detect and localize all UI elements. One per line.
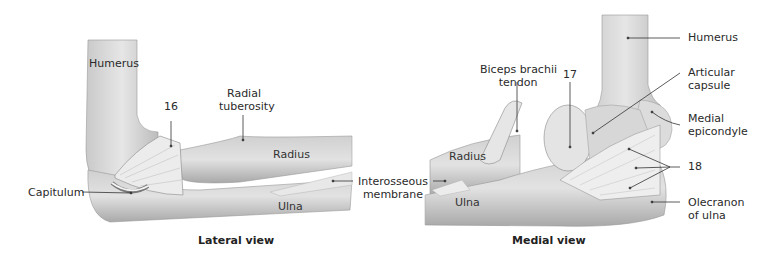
- label-olecranon-line1: Olecranon: [688, 196, 744, 209]
- label-olecranon-line2: of ulna: [688, 209, 744, 222]
- label-articular-line2: capsule: [688, 79, 735, 92]
- label-radial-tuberosity-line2: tuberosity: [219, 100, 269, 113]
- label-biceps-brachii-tendon: Biceps brachii tendon: [480, 63, 556, 89]
- label-ligament-18: 18: [688, 160, 702, 173]
- label-radius-medial: Radius: [449, 150, 486, 163]
- label-biceps-line2: tendon: [480, 76, 556, 89]
- label-medial-epi-line1: Medial: [688, 112, 748, 125]
- caption-lateral-view: Lateral view: [198, 234, 274, 247]
- label-olecranon-of-ulna: Olecranon of ulna: [688, 196, 744, 222]
- label-medial-epi-line2: epicondyle: [688, 125, 748, 138]
- label-biceps-line1: Biceps brachii: [480, 63, 556, 76]
- label-ulna-medial: Ulna: [455, 196, 480, 209]
- label-interosseous-line2: membrane: [355, 188, 431, 201]
- label-radial-tuberosity-line1: Radial: [219, 87, 269, 100]
- label-medial-epicondyle: Medial epicondyle: [688, 112, 748, 138]
- label-interosseous-membrane: Interosseous membrane: [355, 175, 431, 201]
- label-capitulum: Capitulum: [28, 186, 85, 199]
- label-humerus-lateral: Humerus: [89, 57, 139, 70]
- label-articular-capsule: Articular capsule: [688, 66, 735, 92]
- caption-medial-view: Medial view: [512, 234, 586, 247]
- label-ligament-17: 17: [563, 68, 577, 81]
- label-interosseous-line1: Interosseous: [355, 175, 431, 188]
- label-articular-line1: Articular: [688, 66, 735, 79]
- label-radius-lateral: Radius: [273, 148, 310, 161]
- elbow-illustration: [0, 0, 772, 258]
- label-humerus-medial: Humerus: [688, 31, 738, 44]
- label-ulna-lateral: Ulna: [278, 200, 303, 213]
- label-ligament-16: 16: [164, 100, 178, 113]
- label-radial-tuberosity: Radial tuberosity: [219, 87, 269, 113]
